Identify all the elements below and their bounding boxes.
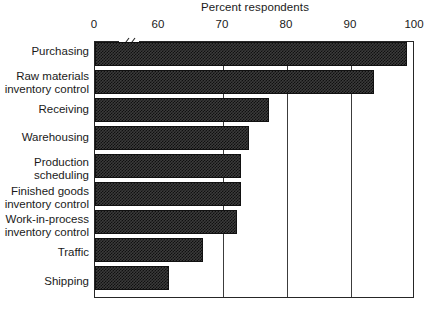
plot-area (94, 41, 414, 298)
y-category-label-raw-materials: Raw materials inventory control (5, 70, 89, 96)
bar-warehousing (95, 126, 249, 150)
x-tick-label-70: 70 (216, 18, 229, 30)
x-tick-label-80: 80 (280, 18, 293, 30)
x-tick-label-100: 100 (404, 18, 423, 30)
y-category-label-warehousing: Warehousing (22, 131, 89, 144)
bar-shipping (95, 266, 169, 290)
y-category-label-production-scheduling: Production scheduling (34, 156, 89, 182)
y-category-label-finished-goods: Finished goods inventory control (5, 185, 89, 211)
y-category-label-shipping: Shipping (44, 275, 89, 288)
bar-receiving (95, 98, 269, 122)
bar-traffic (95, 238, 203, 262)
x-tick-label-90: 90 (344, 18, 357, 30)
bar-finished-goods-inventory-control (95, 182, 241, 206)
x-tickmark-100 (413, 42, 414, 47)
bar-chart: Percent respondents 0 60 70 80 90 100 Pu… (0, 0, 436, 312)
bar-purchasing (95, 42, 407, 66)
x-tick-label-60: 60 (152, 18, 165, 30)
y-category-label-receiving: Receiving (39, 103, 90, 116)
y-category-label-purchasing: Purchasing (31, 45, 89, 58)
x-tick-label-0: 0 (91, 18, 97, 30)
chart-title-text: Percent respondents (201, 1, 309, 13)
y-category-label-traffic: Traffic (58, 246, 89, 259)
bar-raw-materials-inventory-control (95, 70, 374, 94)
bar-production-scheduling (95, 154, 241, 178)
y-category-label-work-in-process: Work-in-process inventory control (5, 213, 89, 239)
bar-work-in-process-inventory-control (95, 210, 237, 234)
chart-title: Percent respondents (0, 1, 436, 13)
